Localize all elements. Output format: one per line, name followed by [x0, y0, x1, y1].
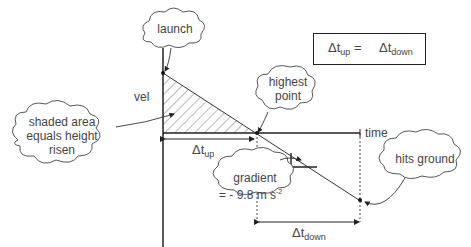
- shaded-area-label-3: risen: [12, 143, 112, 157]
- gradient-label-2: = - 9.8 m s-2: [219, 185, 282, 202]
- highest-point-label-2: point: [258, 89, 318, 103]
- equation-left: Δtup =: [328, 41, 362, 59]
- hits-ground-label: hits ground: [385, 152, 465, 166]
- shaded-area-label-1: shaded area: [12, 115, 112, 129]
- shaded-area-label-2: equals height: [12, 129, 112, 143]
- launch-label: launch: [150, 22, 200, 36]
- equation-right: Δtdown: [379, 41, 413, 59]
- gradient-label-1: gradient: [215, 171, 295, 185]
- time-axis-label: time: [365, 126, 388, 140]
- launch-point: [161, 71, 165, 75]
- delta-t-down-label: Δtdown: [292, 226, 326, 244]
- delta-t-up-label: Δtup: [192, 143, 214, 161]
- highest-point-label-1: highest: [258, 75, 318, 89]
- velocity-axis-label: vel: [134, 90, 149, 104]
